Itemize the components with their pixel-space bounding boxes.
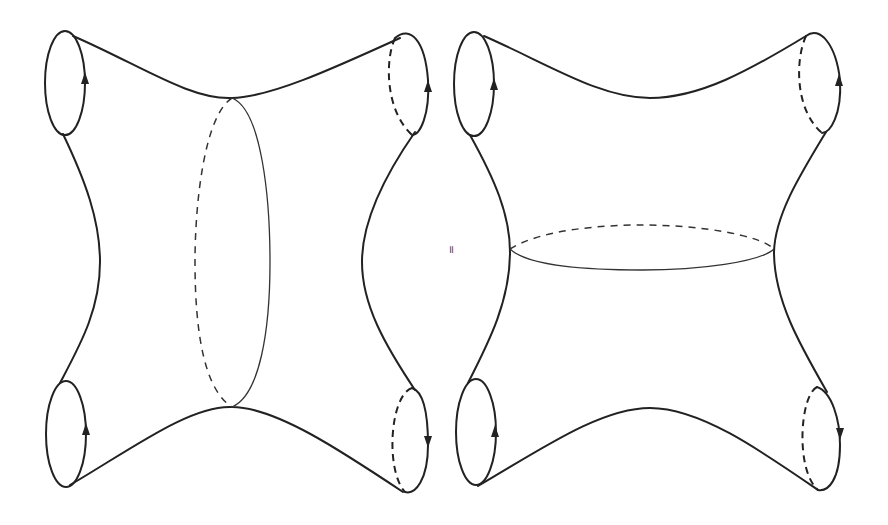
left-right-edge	[362, 132, 415, 390]
boundary-circle-bottom-right-front	[405, 388, 428, 492]
right-surface	[454, 32, 844, 490]
left-bottom-edge	[70, 407, 403, 492]
boundary-circle-top-right-back	[389, 38, 412, 135]
cut-circle-back	[510, 225, 774, 249]
boundary-circle-top-left	[45, 31, 85, 135]
boundary-circle-top-left	[454, 32, 494, 136]
diagram-canvas	[0, 0, 888, 525]
boundary-circle-bottom-left	[46, 381, 86, 487]
left-top-edge	[73, 36, 400, 98]
cut-circle-back	[195, 98, 232, 407]
arrow-up-icon	[81, 72, 89, 84]
left-left-edge	[60, 134, 100, 383]
boundary-circle-bottom-right-front	[817, 387, 840, 490]
arrow-up-icon	[424, 80, 432, 92]
arrow-up-icon	[491, 425, 499, 437]
arrow-up-icon	[82, 423, 90, 435]
arrow-up-icon	[490, 78, 498, 90]
cut-circle-front	[232, 98, 270, 407]
right-left-edge	[468, 135, 510, 383]
arrow-down-icon	[836, 428, 844, 440]
right-top-edge	[484, 36, 806, 98]
boundary-circle-top-right-front	[806, 33, 840, 133]
right-right-edge	[774, 132, 827, 392]
boundary-circle-bottom-right-back	[392, 388, 412, 492]
arrow-down-icon	[424, 436, 432, 448]
cut-circle-front	[510, 249, 774, 270]
arrow-up-icon	[835, 74, 843, 86]
boundary-circle-top-right-back	[799, 36, 822, 133]
left-surface	[45, 31, 432, 492]
boundary-circle-bottom-right-back	[802, 387, 818, 490]
equals-sign: =	[445, 245, 458, 254]
boundary-circle-bottom-left	[456, 379, 496, 485]
right-bottom-edge	[478, 408, 818, 490]
